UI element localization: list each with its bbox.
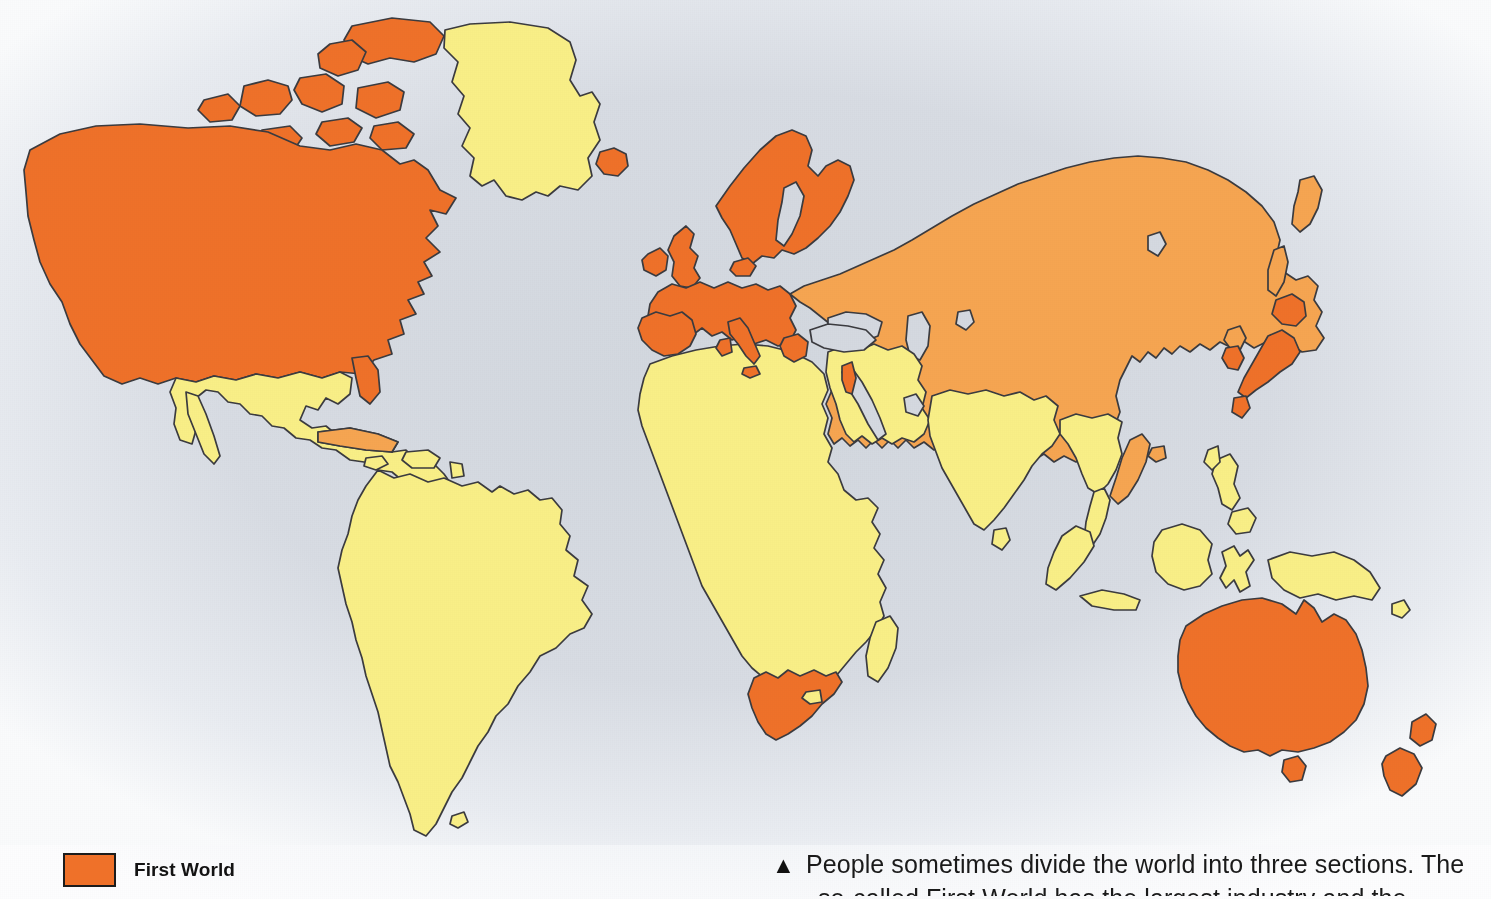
world-map: [0, 0, 1491, 899]
legend-label-first-world: First World: [134, 859, 235, 881]
figure-caption: ▲ People sometimes divide the world into…: [772, 848, 1484, 896]
legend-swatch-first-world: [63, 853, 116, 887]
caption-line-2-text: so-called First World has the largest in…: [818, 882, 1407, 896]
caption-line-1-text: People sometimes divide the world into t…: [806, 848, 1464, 881]
caption-line-1: ▲ People sometimes divide the world into…: [772, 848, 1484, 882]
caption-triangle-icon: ▲: [772, 849, 795, 882]
caption-line-2: so-called First World has the largest in…: [772, 882, 1484, 896]
figure-page: First World ▲ People sometimes divide th…: [0, 0, 1491, 899]
region-sulawesi: [1220, 546, 1254, 592]
region-lesser-antilles: [450, 462, 464, 478]
map-legend: First World: [63, 853, 235, 887]
